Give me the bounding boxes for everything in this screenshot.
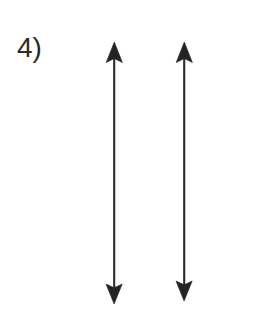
worksheet-page: 4) bbox=[0, 0, 280, 313]
arrow-diagram bbox=[0, 0, 280, 313]
left-arrow bbox=[106, 42, 122, 304]
left-arrow-up-head-icon bbox=[106, 42, 122, 63]
item-number-label: 4) bbox=[17, 33, 42, 63]
right-arrow-down-head-icon bbox=[176, 281, 192, 301]
right-arrow bbox=[176, 42, 192, 301]
right-arrow-up-head-icon bbox=[176, 42, 192, 63]
left-arrow-down-head-icon bbox=[106, 284, 122, 304]
